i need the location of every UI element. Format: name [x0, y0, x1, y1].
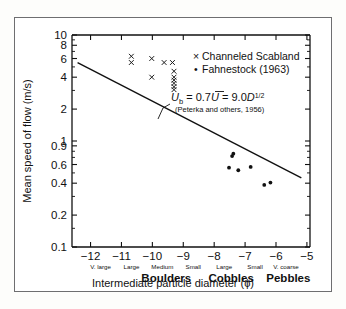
marker-cross-0	[129, 54, 134, 59]
x-tick-label-1: −11	[112, 250, 131, 262]
equation-equals-two: =	[219, 91, 232, 103]
x-axis-size-sublabels: V. largeLargeMediumSmallLargeSmallV. coa…	[90, 263, 299, 270]
marker-cross-1	[129, 60, 134, 65]
y-tick-label-10: 0.1	[51, 241, 67, 253]
y-tick-label-6: 0.9	[51, 140, 67, 152]
marker-dot-2	[227, 166, 231, 170]
y-tick-label-3: 4	[61, 71, 68, 83]
scatter-chart: 10864210.90.60.40.20.1 −12−11−10−9−8−7−6…	[0, 0, 346, 309]
marker-cross-4	[170, 60, 175, 65]
x-sublabel-1: Large	[124, 263, 140, 270]
x-sublabel-6: V. coarse	[273, 263, 299, 270]
x-sublabel-3: Small	[186, 263, 201, 270]
peterka-trend-line	[78, 63, 302, 178]
x-tick-label-6: −6	[269, 250, 282, 262]
x-sublabel-4: Large	[216, 263, 232, 270]
class-label-pebbles: Pebbles	[266, 272, 310, 284]
series-channeled-scabland	[129, 54, 176, 92]
equation-d-symbol: D	[247, 91, 255, 103]
equation-annotation: Ub = 0.7U = 9.0D1/2 (Peterka and others,…	[158, 91, 265, 119]
marker-dot-6	[269, 181, 273, 185]
marker-cross-2	[149, 56, 154, 61]
x-sublabel-0: V. large	[90, 263, 111, 270]
equation-citation: (Peterka and others, 1956)	[175, 105, 265, 114]
x-sublabel-5: Small	[247, 263, 262, 270]
legend-marker-cross: ×	[193, 50, 199, 62]
marker-dot-5	[262, 183, 266, 187]
y-tick-label-9: 0.2	[51, 209, 67, 221]
legend-label-channeled-scabland: Channeled Scabland	[202, 50, 300, 62]
y-tick-label-2: 6	[61, 53, 67, 65]
x-tick-label-7: −5	[300, 250, 313, 262]
x-tick-label-0: −12	[81, 250, 101, 262]
x-tick-label-5: −7	[239, 250, 252, 262]
equation-exponent: 1/2	[255, 92, 265, 99]
y-tick-label-1: 8	[61, 39, 67, 51]
marker-dot-3	[236, 168, 240, 172]
marker-dot-4	[249, 165, 253, 169]
marker-cross-3	[162, 60, 167, 65]
x-sublabel-2: Medium	[151, 263, 173, 270]
y-axis-tick-labels: 10864210.90.60.40.20.1	[51, 29, 68, 253]
equation-coefficient: 0.7	[196, 91, 211, 103]
equation-equals-one: =	[183, 91, 196, 103]
x-axis-tick-labels: −12−11−10−9−8−7−6−5	[81, 250, 314, 262]
equation-u-symbol: U	[171, 91, 179, 103]
x-tick-label-4: −8	[208, 250, 221, 262]
y-tick-label-4: 2	[61, 103, 67, 115]
legend-marker-dot: •	[194, 63, 198, 75]
y-axis-title: Mean speed of flow (m/s)	[21, 79, 33, 203]
equation-u-bar: U	[211, 91, 219, 103]
marker-cross-6	[172, 69, 177, 74]
x-tick-label-2: −10	[143, 250, 163, 262]
figure-root: 10864210.90.60.40.20.1 −12−11−10−9−8−7−6…	[0, 0, 346, 309]
legend: × Channeled Scabland • Fahnestock (1963)	[193, 50, 300, 75]
legend-label-fahnestock: Fahnestock (1963)	[202, 63, 290, 75]
marker-cross-5	[149, 75, 154, 80]
marker-dot-1	[230, 154, 234, 158]
equation-value: 9.0	[231, 91, 246, 103]
equation-text: Ub = 0.7U = 9.0D1/2	[171, 91, 265, 106]
y-tick-label-8: 0.4	[51, 177, 68, 189]
x-tick-label-3: −9	[177, 250, 190, 262]
y-tick-label-7: 0.6	[51, 159, 67, 171]
x-axis-title: Intermediate particle diameter (ϕ)	[92, 277, 254, 289]
series-fahnestock	[227, 152, 272, 187]
